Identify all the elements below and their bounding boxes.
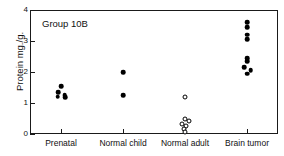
data-point <box>245 59 250 64</box>
y-axis-title: Protein mg./g. <box>14 2 25 122</box>
x-tick-label-brain-tumor: Brain tumor <box>225 138 269 148</box>
data-point <box>183 130 188 135</box>
data-point <box>245 25 250 30</box>
x-tick-label-normal-child: Normal child <box>99 138 146 148</box>
scatter-plot-figure: 01234 Protein mg./g. PrenatalNormal chil… <box>0 0 284 156</box>
data-point <box>121 93 126 98</box>
data-point <box>63 95 68 100</box>
x-axis-tick-labels: PrenatalNormal childNormal adultBrain tu… <box>30 138 278 152</box>
y-tick-label: 0 <box>14 130 28 138</box>
data-point <box>183 94 188 99</box>
data-point <box>121 70 126 75</box>
data-points-layer <box>30 10 278 134</box>
data-point <box>245 71 250 76</box>
x-tick-label-prenatal: Prenatal <box>45 138 77 148</box>
data-point <box>242 65 247 70</box>
data-point <box>55 95 60 100</box>
data-point <box>59 84 64 89</box>
data-point <box>187 118 192 123</box>
data-point <box>245 37 250 42</box>
x-tick-label-normal-adult: Normal adult <box>161 138 209 148</box>
